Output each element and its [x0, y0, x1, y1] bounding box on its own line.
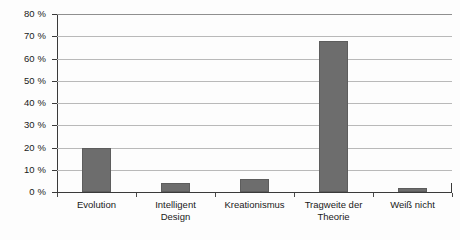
gridline-50: [57, 81, 452, 82]
y-tick-70: [52, 36, 57, 37]
gridline-30: [57, 125, 452, 126]
y-tick-50: [52, 81, 57, 82]
gridline-80: [57, 14, 452, 15]
y-axis-tick-label: 60 %: [2, 53, 46, 64]
x-axis-category-label: Weiß nicht: [373, 199, 452, 211]
bar-chart: 0 %10 %20 %30 %40 %50 %60 %70 %80 % Evol…: [0, 0, 460, 240]
y-axis-tick-label: 10 %: [2, 164, 46, 175]
y-axis-tick-label: 30 %: [2, 119, 46, 130]
x-tick-start: [57, 193, 58, 197]
gridline-70: [57, 36, 452, 37]
bar: [319, 41, 348, 192]
gridline-60: [57, 59, 452, 60]
y-axis-tick-label: 20 %: [2, 142, 46, 153]
x-tick: [373, 193, 374, 197]
x-tick: [294, 193, 295, 197]
y-tick-10: [52, 170, 57, 171]
bar: [398, 188, 427, 192]
gridline-10: [57, 170, 452, 171]
y-axis-tick-label: 80 %: [2, 8, 46, 19]
x-axis-category-label: Intelligent Design: [136, 199, 215, 222]
x-axis-category-label: Evolution: [57, 199, 136, 211]
y-tick-80: [52, 14, 57, 15]
bar: [161, 183, 190, 192]
x-tick: [136, 193, 137, 197]
plot-area: [57, 14, 452, 192]
y-axis-tick-label: 40 %: [2, 97, 46, 108]
gridline-20: [57, 148, 452, 149]
x-axis-category-label: Tragweite der Theorie: [294, 199, 373, 222]
y-tick-30: [52, 125, 57, 126]
x-axis-category-label: Kreationismus: [215, 199, 294, 211]
bar: [240, 179, 269, 192]
x-tick: [215, 193, 216, 197]
y-axis-tick-label: 0 %: [2, 186, 46, 197]
bar: [82, 148, 111, 193]
gridline-40: [57, 103, 452, 104]
gridline-0: [57, 192, 452, 193]
y-tick-40: [52, 103, 57, 104]
y-axis-tick-label: 70 %: [2, 30, 46, 41]
y-tick-60: [52, 59, 57, 60]
x-tick-end: [452, 193, 453, 197]
y-tick-20: [52, 148, 57, 149]
y-axis-tick-label: 50 %: [2, 75, 46, 86]
